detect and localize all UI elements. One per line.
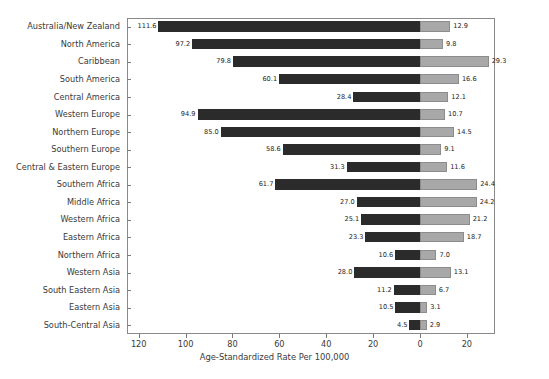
incidence-bar (192, 39, 420, 50)
chart-row: 111.612.9 (0, 19, 368, 35)
x-axis-tick (139, 334, 140, 338)
chart-row: 11.26.7 (0, 282, 368, 298)
chart-row: 58.69.1 (0, 142, 368, 158)
incidence-bar (221, 127, 420, 138)
incidence-value-label: 97.2 (158, 39, 190, 49)
mortality-value-label: 2.9 (430, 320, 462, 330)
mortality-bar (420, 127, 454, 138)
incidence-value-label: 10.6 (361, 250, 393, 260)
mortality-value-label: 16.6 (462, 74, 494, 84)
incidence-bar (275, 179, 420, 190)
mortality-bar (420, 109, 445, 120)
mortality-value-label: 13.1 (454, 267, 486, 277)
incidence-bar (361, 214, 420, 225)
mortality-bar (420, 56, 489, 67)
mortality-bar (420, 179, 477, 190)
mortality-bar (420, 74, 459, 85)
x-axis-tick (420, 334, 421, 338)
mortality-value-label: 24.2 (480, 197, 512, 207)
mortality-bar (420, 197, 477, 208)
chart-row: 79.829.3 (0, 54, 368, 70)
incidence-bar (283, 144, 420, 155)
chart-row: 4.52.9 (0, 317, 368, 333)
chart-row: 94.910.7 (0, 107, 368, 123)
chart-figure: Incidence Mortality Australia/New Zealan… (0, 0, 549, 379)
mortality-value-label: 14.5 (457, 127, 489, 137)
incidence-bar (394, 285, 420, 296)
x-axis-tick (373, 334, 374, 338)
incidence-value-label: 94.9 (164, 109, 196, 119)
x-axis-tick (279, 334, 280, 338)
x-axis-title: Age-Standardized Rate Per 100,000 (0, 352, 549, 362)
incidence-bar (279, 74, 420, 85)
mortality-value-label: 24.4 (480, 179, 512, 189)
chart-row: 25.121.2 (0, 212, 368, 228)
mortality-value-label: 9.1 (444, 144, 476, 154)
incidence-bar (347, 162, 420, 173)
incidence-value-label: 61.7 (241, 179, 273, 189)
mortality-bar (420, 144, 441, 155)
chart-row: 85.014.5 (0, 124, 368, 140)
chart-row: 60.116.6 (0, 71, 368, 87)
chart-row: 10.67.0 (0, 247, 368, 263)
mortality-bar (420, 250, 436, 261)
mortality-bar (420, 21, 450, 32)
incidence-bar (365, 232, 420, 243)
x-axis-tick-label: 80 (212, 339, 252, 349)
chart-row: 31.311.6 (0, 159, 368, 175)
mortality-bar (420, 320, 427, 331)
mortality-value-label: 10.7 (448, 109, 480, 119)
mortality-value-label: 18.7 (467, 232, 499, 242)
mortality-bar (420, 232, 464, 243)
incidence-bar (233, 56, 420, 67)
x-axis-tick-label: 20 (353, 339, 393, 349)
incidence-bar (158, 21, 420, 32)
mortality-bar (420, 39, 443, 50)
chart-row: 10.53.1 (0, 300, 368, 316)
chart-row: 23.318.7 (0, 229, 368, 245)
incidence-value-label: 28.0 (320, 267, 352, 277)
incidence-value-label: 27.0 (323, 197, 355, 207)
incidence-value-label: 10.5 (361, 302, 393, 312)
chart-row: 28.013.1 (0, 265, 368, 281)
incidence-bar (395, 250, 420, 261)
mortality-value-label: 9.8 (446, 39, 478, 49)
x-axis-tick (232, 334, 233, 338)
incidence-value-label: 4.5 (375, 320, 407, 330)
incidence-bar (198, 109, 420, 120)
x-axis-tick-label: 20 (447, 339, 487, 349)
incidence-value-label: 111.6 (124, 21, 156, 31)
x-axis-tick (326, 334, 327, 338)
mortality-bar (420, 162, 447, 173)
chart-row: 97.29.8 (0, 36, 368, 52)
x-axis-tick (467, 334, 468, 338)
chart-row: 61.724.4 (0, 177, 368, 193)
mortality-value-label: 3.1 (430, 302, 462, 312)
mortality-bar (420, 302, 427, 313)
mortality-bar (420, 214, 470, 225)
mortality-value-label: 29.3 (492, 56, 524, 66)
incidence-bar (357, 197, 420, 208)
incidence-value-label: 23.3 (331, 232, 363, 242)
incidence-value-label: 58.6 (249, 144, 281, 154)
x-axis-tick-label: 0 (400, 339, 440, 349)
mortality-bar (420, 92, 448, 103)
incidence-value-label: 31.3 (313, 162, 345, 172)
incidence-bar (354, 267, 420, 278)
x-axis-tick-label: 40 (306, 339, 346, 349)
incidence-value-label: 28.4 (319, 92, 351, 102)
mortality-value-label: 7.0 (439, 250, 471, 260)
chart-row: 28.412.1 (0, 89, 368, 105)
mortality-bar (420, 285, 436, 296)
incidence-value-label: 85.0 (187, 127, 219, 137)
x-axis-tick-label: 100 (166, 339, 206, 349)
incidence-value-label: 11.2 (360, 285, 392, 295)
x-axis-tick-label: 60 (259, 339, 299, 349)
x-axis-tick-label: 120 (119, 339, 159, 349)
mortality-value-label: 21.2 (473, 214, 505, 224)
mortality-value-label: 12.9 (453, 21, 485, 31)
mortality-value-label: 6.7 (439, 285, 471, 295)
x-axis-tick (186, 334, 187, 338)
mortality-bar (420, 267, 451, 278)
incidence-bar (353, 92, 420, 103)
